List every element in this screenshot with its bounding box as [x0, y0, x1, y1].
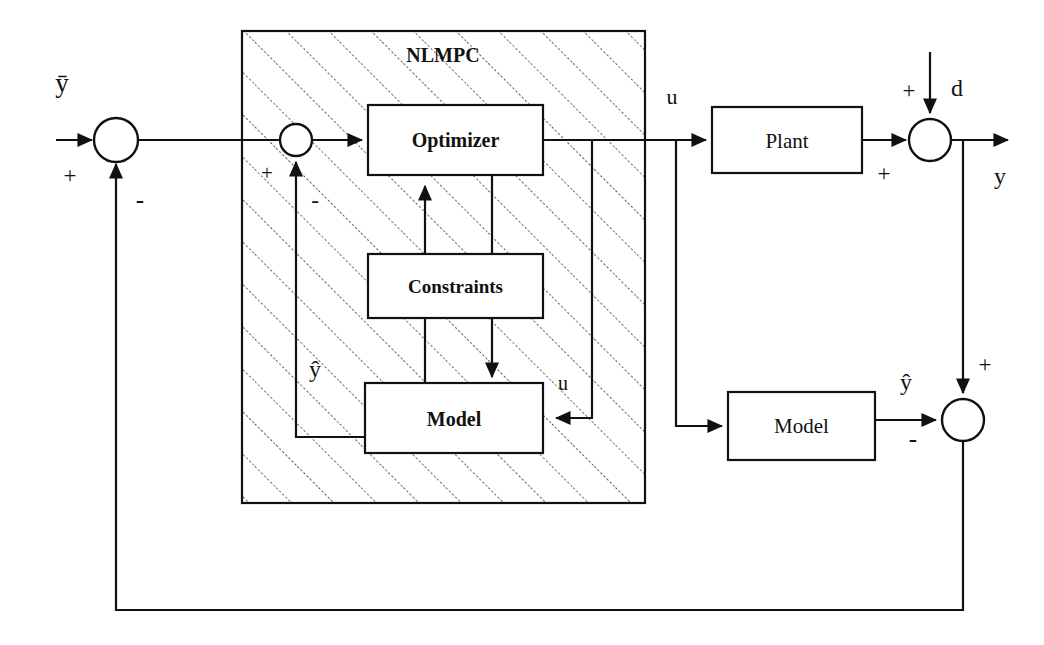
block-outer-model[interactable]: Model	[728, 392, 875, 460]
model-output-label: ŷ	[900, 369, 912, 395]
block-constraints[interactable]: Constraints	[368, 254, 543, 318]
outer-model-label: Model	[774, 414, 829, 438]
sign-disturbance-plus: +	[903, 78, 916, 103]
plant-label: Plant	[765, 129, 808, 153]
wire-u-to-outer-model	[676, 140, 722, 426]
sign-inner-plus: +	[261, 161, 273, 185]
sign-setpoint-plus: +	[64, 163, 77, 188]
block-plant[interactable]: Plant	[712, 107, 862, 173]
optimizer-label: Optimizer	[412, 129, 500, 152]
sign-setpoint-minus: -	[136, 186, 144, 213]
sign-plant-plus: +	[878, 161, 891, 186]
model-output-inner-label: ŷ	[309, 356, 321, 382]
output-label: y	[994, 163, 1006, 189]
sign-error-minus: -	[909, 425, 917, 452]
sign-inner-minus: -	[311, 188, 319, 213]
constraints-label: Constraints	[408, 276, 503, 297]
control-signal-label: u	[667, 84, 678, 109]
summing-junction-error[interactable]	[942, 399, 984, 441]
disturbance-label: d	[951, 75, 963, 101]
control-signal-inner-label: u	[558, 372, 568, 394]
diagram-svg: NLMPC	[0, 0, 1044, 645]
inner-model-label: Model	[427, 408, 482, 430]
setpoint-label: ȳ	[55, 68, 69, 98]
block-inner-model[interactable]: Model	[365, 383, 543, 453]
summing-junction-inner[interactable]	[280, 124, 312, 156]
nlmpc-title: NLMPC	[406, 44, 479, 66]
sign-error-plus: +	[979, 352, 992, 377]
block-diagram-canvas: NLMPC	[0, 0, 1044, 645]
summing-junction-setpoint[interactable]	[94, 118, 138, 162]
summing-junction-disturbance[interactable]	[909, 119, 951, 161]
block-optimizer[interactable]: Optimizer	[368, 105, 543, 175]
